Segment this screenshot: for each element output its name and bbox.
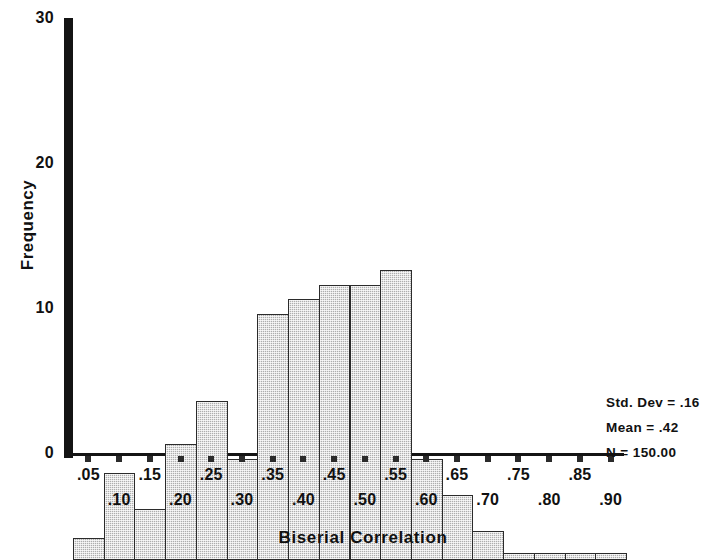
x-axis-tick-label-p80: .80 xyxy=(538,491,561,509)
x-axis-tick-mark-6 xyxy=(270,456,276,462)
bar-p55 xyxy=(380,270,412,560)
x-axis-tick-mark-2 xyxy=(147,456,153,462)
x-axis-tick-label-p25: .25 xyxy=(200,466,223,484)
y-axis-tick-30: 30 xyxy=(14,9,54,27)
x-axis-tick-label-p55: .55 xyxy=(384,466,407,484)
bar-p85 xyxy=(565,553,597,560)
y-axis-title: Frequency xyxy=(18,125,38,325)
x-axis-tick-label-p10: .10 xyxy=(108,491,131,509)
x-axis-tick-label-p35: .35 xyxy=(261,466,284,484)
sample-size-label: N = 150.00 xyxy=(606,440,726,465)
x-axis-tick-mark-13 xyxy=(485,456,491,462)
x-axis-tick-mark-10 xyxy=(393,456,399,462)
histogram-figure: 0102030 .05.10.15.20.25.30.35.40.45.50.5… xyxy=(0,0,726,560)
x-axis-tick-mark-16 xyxy=(577,456,583,462)
y-axis-spine xyxy=(64,18,73,458)
mean-label: Mean = .42 xyxy=(606,415,726,440)
x-axis-tick-mark-14 xyxy=(515,456,521,462)
x-axis-tick-label-p20: .20 xyxy=(169,491,192,509)
bar-p35 xyxy=(257,314,289,560)
x-axis-tick-label-p40: .40 xyxy=(292,491,315,509)
x-axis-tick-mark-7 xyxy=(300,456,306,462)
x-axis-title: Biserial Correlation xyxy=(0,528,726,548)
x-axis-tick-label-p15: .15 xyxy=(138,466,161,484)
x-axis-tick-mark-15 xyxy=(546,456,552,462)
x-axis-tick-mark-3 xyxy=(178,456,184,462)
x-axis-tick-mark-9 xyxy=(362,456,368,462)
x-axis-tick-mark-1 xyxy=(116,456,122,462)
std-dev-label: Std. Dev = .16 xyxy=(606,390,726,415)
bar-p45 xyxy=(319,285,351,560)
x-axis-tick-mark-11 xyxy=(423,456,429,462)
bar-p80 xyxy=(534,553,566,560)
bar-p40 xyxy=(288,299,320,560)
x-axis-tick-label-p60: .60 xyxy=(415,491,438,509)
bar-p50 xyxy=(350,285,382,560)
x-axis-tick-label-p65: .65 xyxy=(446,466,469,484)
y-axis-tick-0: 0 xyxy=(14,444,54,462)
x-axis-tick-label-p45: .45 xyxy=(323,466,346,484)
statistics-box: Std. Dev = .16 Mean = .42 N = 150.00 xyxy=(606,390,726,465)
x-axis-tick-label-p30: .30 xyxy=(231,491,254,509)
x-axis-tick-label-p85: .85 xyxy=(568,466,591,484)
x-axis-tick-mark-0 xyxy=(85,456,91,462)
x-axis-tick-label-p90: .90 xyxy=(599,491,622,509)
x-axis-tick-label-p75: .75 xyxy=(507,466,530,484)
bar-p90 xyxy=(595,553,627,560)
x-axis-tick-label-p05: .05 xyxy=(77,466,100,484)
x-axis-tick-mark-8 xyxy=(331,456,337,462)
x-axis-tick-label-p50: .50 xyxy=(353,491,376,509)
x-axis-tick-mark-12 xyxy=(454,456,460,462)
x-axis-tick-label-p70: .70 xyxy=(476,491,499,509)
x-axis-tick-mark-4 xyxy=(208,456,214,462)
bar-p75 xyxy=(503,553,535,560)
x-axis-tick-mark-5 xyxy=(239,456,245,462)
